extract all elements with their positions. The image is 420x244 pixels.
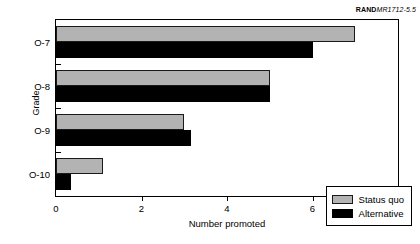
- y-tick-label-o-7: O-7: [34, 37, 50, 48]
- source-credit: RANDMR1712-5.5: [356, 6, 416, 13]
- y-tick-label-o-10: O-10: [29, 169, 50, 180]
- x-tick-label-4: 4: [224, 203, 229, 214]
- document-id-label: MR1712-5.5: [376, 6, 416, 13]
- bar-o-10-alternative: [56, 174, 71, 190]
- y-tick-mark: [56, 152, 61, 153]
- chart-legend: Status quo Alternative: [326, 186, 412, 226]
- x-tick-label-6: 6: [310, 203, 315, 214]
- bar-o-10-status-quo: [56, 158, 103, 174]
- y-tick-label-o-8: O-8: [34, 81, 50, 92]
- legend-item-status-quo: Status quo: [332, 192, 404, 206]
- x-tick-mark: [227, 196, 228, 201]
- x-tick-label-2: 2: [139, 203, 144, 214]
- bar-o-7-alternative: [56, 42, 313, 58]
- bar-o-9-status-quo: [56, 114, 184, 130]
- y-tick-label-o-9: O-9: [34, 125, 50, 136]
- legend-label-alternative: Alternative: [359, 208, 404, 219]
- bar-o-9-alternative: [56, 130, 191, 146]
- plot-area: [56, 20, 398, 196]
- bar-o-8-alternative: [56, 86, 270, 102]
- y-tick-mark: [56, 64, 61, 65]
- legend-swatch-alternative: [332, 209, 353, 218]
- x-tick-mark: [313, 196, 314, 201]
- rand-brand-label: RAND: [356, 6, 377, 13]
- legend-item-alternative: Alternative: [332, 206, 404, 220]
- legend-swatch-status-quo: [332, 195, 353, 204]
- legend-label-status-quo: Status quo: [359, 194, 404, 205]
- bar-group: [56, 64, 398, 108]
- y-tick-mark: [56, 108, 61, 109]
- x-tick-mark: [142, 196, 143, 201]
- bar-o-7-status-quo: [56, 26, 355, 42]
- bar-group: [56, 20, 398, 64]
- y-axis-title: Grade: [31, 90, 41, 115]
- bar-o-8-status-quo: [56, 70, 270, 86]
- x-tick-label-0: 0: [53, 203, 58, 214]
- plot-frame: Grade Number promoted O-7O-8O-9O-1002468: [55, 19, 399, 197]
- bar-group: [56, 108, 398, 152]
- bar-chart-figure: RANDMR1712-5.5 Grade Number promoted O-7…: [0, 0, 420, 244]
